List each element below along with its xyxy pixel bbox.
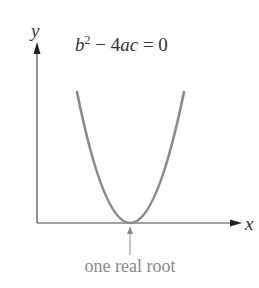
eq-ac: ac xyxy=(120,34,139,55)
parabola-diagram: y x b2 − 4ac = 0 one real root xyxy=(0,0,259,288)
svg-text:b2 − 4ac = 0: b2 − 4ac = 0 xyxy=(75,33,168,55)
eq-b: b xyxy=(75,34,85,55)
root-pointer-arrow-icon xyxy=(127,226,133,234)
y-axis-arrow-icon xyxy=(34,42,41,54)
x-axis-label: x xyxy=(244,213,254,234)
y-axis-label: y xyxy=(29,20,40,41)
x-axis-arrow-icon xyxy=(230,220,242,227)
one-real-root-label: one real root xyxy=(85,256,176,276)
eq-minus-four: − 4 xyxy=(91,34,121,55)
parabola-curve xyxy=(77,92,184,223)
eq-equals-zero: = 0 xyxy=(138,34,168,55)
discriminant-equation: b2 − 4ac = 0 xyxy=(75,33,168,55)
